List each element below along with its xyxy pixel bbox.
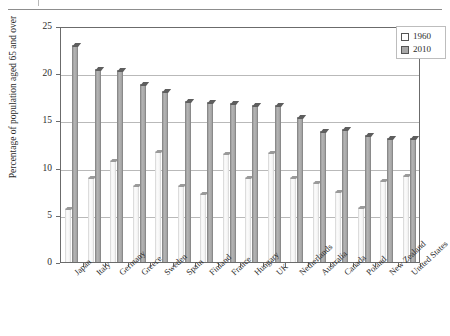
y-axis-title: Percentage of population aged 65 and ove… [8,0,18,222]
y-axis-tick [56,263,60,264]
y-axis-tick-label: 20 [12,69,52,79]
page-divider-rule [8,9,442,10]
bar-1960 [380,180,386,262]
bar-series-container [61,28,419,262]
legend-item-2010: 2010 [401,43,441,56]
bar-2010 [342,129,348,262]
x-axis-label-uk: UK [274,262,290,278]
legend-label-1960: 1960 [413,32,431,41]
bar-2010 [162,91,168,262]
y-axis-tick-label: 0 [12,258,52,268]
bar-1960 [110,160,116,262]
y-axis-tick-label: 25 [12,22,52,32]
bar-2010 [275,105,281,262]
page-divider-stub [38,0,39,6]
bar-1960 [200,193,206,262]
bar-1960 [65,208,71,262]
bar-1960 [223,153,229,263]
bar-2010 [185,101,191,262]
bar-2010 [387,138,393,262]
legend-label-2010: 2010 [413,45,431,54]
filled-square-icon [401,46,409,54]
bar-2010 [72,45,78,262]
bar-1960 [178,185,184,262]
bar-2010 [297,117,303,262]
plot-area [60,27,420,263]
bar-1960 [290,177,296,262]
bar-2010 [95,69,101,262]
bar-2010 [117,70,123,262]
y-axis-tick-label: 5 [12,211,52,221]
bar-1960 [245,177,251,262]
bar-2010 [207,102,213,262]
bar-1960 [155,151,161,262]
bar-2010 [140,84,146,262]
legend: 1960 2010 [396,26,446,59]
bar-2010 [252,105,258,262]
hollow-square-icon [401,33,409,41]
bar-2010 [365,135,371,262]
figure-root: 0510152025 Percentage of population aged… [0,0,450,336]
y-axis-tick-label: 10 [12,164,52,174]
legend-item-1960: 1960 [401,30,441,43]
bar-1960 [268,152,274,262]
bar-1960 [88,177,94,262]
y-axis-tick-label: 15 [12,116,52,126]
bar-2010 [230,103,236,262]
